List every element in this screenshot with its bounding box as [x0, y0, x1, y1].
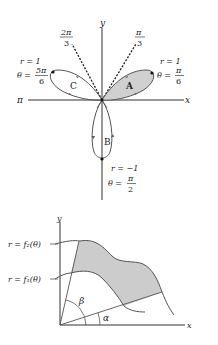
ray-beta	[60, 241, 79, 325]
pi-axis-label: π	[16, 95, 24, 105]
f2-label: r = f₂(θ)	[8, 240, 41, 249]
left-point-r: r = 1	[20, 57, 41, 66]
x-axis-label: x	[185, 95, 190, 105]
bottom-point-num: π	[127, 174, 134, 183]
bottom-x-label: x	[187, 321, 192, 330]
left-point-num: 5π	[36, 66, 47, 75]
right-point-num: π	[175, 66, 182, 75]
ray-pi-3-num: π	[135, 28, 142, 37]
petal-b-tip-point	[100, 157, 103, 160]
bottom-point-r: r = −1	[111, 164, 138, 173]
bottom-point-theta: θ =	[108, 179, 122, 188]
y-axis-label: y	[99, 18, 106, 28]
right-point-den: 6	[176, 77, 181, 86]
petal-c-label: C	[70, 81, 77, 91]
f1-label: r = f₁(θ)	[8, 275, 41, 284]
left-point-theta: θ =	[17, 71, 31, 80]
ray-alpha	[60, 292, 162, 325]
ray-pi-3-den: 3	[137, 39, 142, 48]
origin-cross-1	[97, 100, 102, 108]
bottom-figure: y x r = f₂(θ) r = f₁(θ) β α	[8, 214, 192, 330]
origin-cross-2	[102, 100, 107, 108]
arc-alpha	[98, 313, 100, 325]
top-figure: y x π π 3 2π 3 A C B	[16, 18, 190, 200]
polar-diagrams: y x π π 3 2π 3 A C B	[0, 0, 218, 345]
petal-a-tip-point	[150, 71, 153, 74]
ray-2pi-3-num: 2π	[60, 28, 72, 37]
beta-label: β	[78, 296, 84, 306]
petal-a-label: A	[125, 81, 134, 91]
right-point-theta: θ =	[157, 71, 171, 80]
bottom-point-den: 2	[128, 185, 133, 194]
petal-c-tip-point	[51, 70, 54, 73]
petal-b-label: B	[104, 137, 111, 147]
bottom-y-label: y	[56, 214, 62, 223]
right-point-r: r = 1	[160, 57, 181, 66]
left-point-den: 6	[39, 77, 44, 86]
ray-2pi-over-3	[72, 44, 102, 100]
origin-point	[101, 99, 104, 102]
alpha-label: α	[103, 313, 109, 323]
ray-2pi-3-den: 3	[64, 39, 69, 48]
